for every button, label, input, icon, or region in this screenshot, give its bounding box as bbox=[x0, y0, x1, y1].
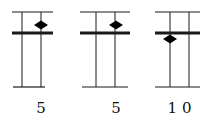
panel-1 bbox=[12, 12, 53, 87]
panel-label: 1 0 bbox=[168, 101, 192, 116]
diamond-marker bbox=[34, 21, 48, 30]
panel-2 bbox=[80, 12, 130, 87]
panel-label: 5 bbox=[36, 101, 46, 116]
panel-3 bbox=[155, 12, 200, 87]
panel-label: 5 bbox=[111, 101, 121, 116]
diamond-marker bbox=[163, 35, 177, 44]
diamond-marker bbox=[109, 21, 123, 30]
